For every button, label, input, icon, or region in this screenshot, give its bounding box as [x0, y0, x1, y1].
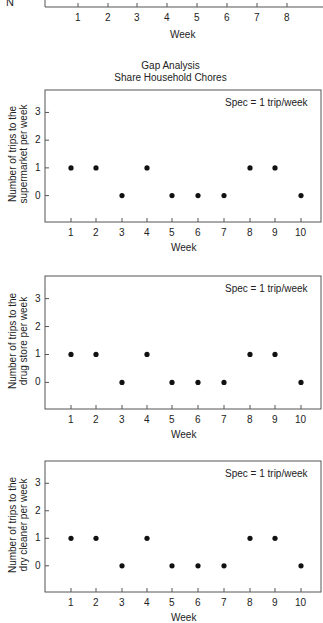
- data-point: [144, 536, 149, 541]
- data-point: [195, 563, 200, 568]
- data-point: [169, 563, 174, 568]
- y-tick-label: 3: [35, 477, 41, 488]
- x-tick-label: 1: [68, 597, 74, 608]
- y-axis-label-line: Number of trips to the: [7, 465, 18, 585]
- data-point: [298, 563, 303, 568]
- plot-area: [0, 0, 323, 623]
- data-point: [119, 563, 124, 568]
- spec-annotation: Spec = 1 trip/week: [225, 468, 308, 479]
- x-tick-label: 7: [221, 597, 227, 608]
- y-axis-label-line: dry cleaner per week: [18, 465, 29, 585]
- x-tick-label: 6: [195, 597, 201, 608]
- x-tick-label: 5: [169, 597, 175, 608]
- x-tick-label: 3: [119, 597, 125, 608]
- data-point: [247, 536, 252, 541]
- y-tick-label: 0: [35, 560, 41, 571]
- x-tick-label: 8: [247, 597, 253, 608]
- data-point: [68, 536, 73, 541]
- data-point: [93, 536, 98, 541]
- x-tick-label: 9: [272, 597, 278, 608]
- x-axis-label: Week: [171, 612, 196, 623]
- x-tick-label: 10: [295, 597, 306, 608]
- y-axis-label: Number of trips to thedry cleaner per we…: [7, 465, 29, 585]
- y-tick-label: 1: [35, 532, 41, 543]
- x-tick-label: 2: [93, 597, 99, 608]
- data-point: [221, 563, 226, 568]
- x-tick-label: 4: [144, 597, 150, 608]
- y-tick-label: 2: [35, 505, 41, 516]
- data-point: [272, 536, 277, 541]
